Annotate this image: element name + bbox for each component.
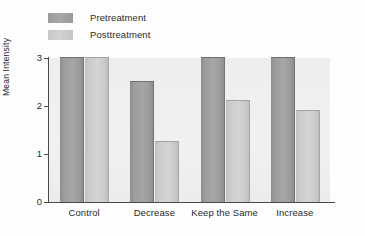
plot-area <box>49 58 330 202</box>
y-tick-label-3: 3 <box>28 53 42 63</box>
x-axis-line <box>45 202 335 203</box>
bar-decrease-pretreatment <box>130 81 154 202</box>
bar-chart-figure: Pretreatment Posttreatment Mean Intensit… <box>0 0 365 236</box>
bar-keep-the-same-pretreatment <box>201 57 225 202</box>
legend-item-pretreatment: Pretreatment <box>48 9 248 26</box>
bar-keep-the-same-posttreatment <box>226 100 250 202</box>
bar-control-posttreatment <box>85 57 109 202</box>
chart-legend: Pretreatment Posttreatment <box>48 9 248 43</box>
bar-increase-pretreatment <box>271 57 295 202</box>
y-tick-label-2: 2 <box>28 101 42 111</box>
y-tick-label-1: 1 <box>28 149 42 159</box>
bar-decrease-posttreatment <box>155 141 179 202</box>
legend-label-pretreatment: Pretreatment <box>90 12 146 23</box>
y-tick-label-0: 0 <box>28 197 42 207</box>
legend-item-posttreatment: Posttreatment <box>48 26 248 43</box>
bar-control-pretreatment <box>60 57 84 202</box>
legend-swatch-pretreatment <box>48 13 73 23</box>
legend-swatch-posttreatment <box>48 30 73 40</box>
bar-increase-posttreatment <box>296 110 320 202</box>
x-tick-label-increase: Increase <box>245 207 345 218</box>
y-axis-title: Mean Intensity <box>1 38 11 96</box>
legend-label-posttreatment: Posttreatment <box>90 29 150 40</box>
